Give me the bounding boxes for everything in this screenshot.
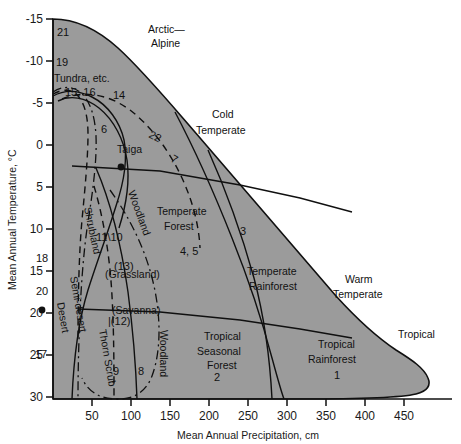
label-woodland-lower: Woodland (158, 330, 170, 377)
zone-arctic-alpine-line1: Arctic— (148, 23, 185, 35)
curve-number-6: 6 (101, 123, 107, 135)
x-tick-label: 250 (238, 409, 258, 423)
desert-point-marker (39, 307, 46, 314)
taiga-point-marker (118, 164, 125, 171)
label-tropical-seasonal-line3: Forest (207, 359, 237, 371)
y-tick-label: -5 (32, 96, 43, 110)
zone-arctic-alpine-line2: Alpine (151, 37, 180, 49)
x-tick-label: 350 (316, 409, 336, 423)
label-grassland: (Grassland) (105, 268, 160, 280)
label-tropical-rainforest-line1: Tropical (318, 338, 355, 350)
curve-number-3: 3 (240, 225, 246, 237)
curve-number-1: 1 (334, 369, 340, 381)
x-tick-label: 300 (277, 409, 297, 423)
curve-number-17: 17 (35, 348, 47, 360)
x-axis-title: Mean Annual Precipitation, cm (177, 429, 319, 441)
curve-number-19: 19 (56, 56, 68, 68)
chart-svg: -15 -10 -5 0 5 10 15 20 25 30 Mean Annua… (0, 0, 461, 444)
x-tick-label: 100 (121, 409, 141, 423)
y-tick-marks (46, 19, 53, 397)
zone-warm-temperate-line2: Temperate (333, 288, 383, 300)
y-tick-label: 5 (36, 180, 43, 194)
y-tick-label: 10 (30, 222, 44, 236)
y-tick-label: 15 (30, 264, 44, 278)
label-temperate-rainforest-line2: Rainforest (249, 280, 297, 292)
x-tick-marks (92, 399, 404, 406)
x-tick-label: 400 (355, 409, 375, 423)
curve-number-12: |(12) (108, 315, 130, 327)
label-temperate-forest-line1: Temperate (157, 205, 207, 217)
x-tick-label: 50 (85, 409, 99, 423)
y-tick-label: 0 (36, 138, 43, 152)
y-tick-label: -15 (26, 12, 44, 26)
curve-number-18: 18 (36, 252, 48, 264)
biome-chart: -15 -10 -5 0 5 10 15 20 25 30 Mean Annua… (0, 0, 461, 444)
label-temperate-forest-line2: Forest (164, 220, 194, 232)
curve-number-4-5: 4, 5 (180, 245, 198, 257)
curve-number-20: 20 (36, 285, 48, 297)
x-tick-label: 200 (199, 409, 219, 423)
zone-warm-temperate-line1: Warm (345, 273, 373, 285)
curve-number-14: 14 (113, 89, 125, 101)
curve-number-8: 8 (138, 365, 144, 377)
x-tick-label: 450 (394, 409, 414, 423)
label-savanna: (Savanna) (112, 304, 160, 316)
y-tick-label: 30 (30, 390, 44, 404)
zone-tropical: Tropical (398, 328, 435, 340)
label-tropical-rainforest-line2: Rainforest (308, 353, 356, 365)
y-axis-title: Mean Annual Temperature, °C (6, 149, 18, 290)
label-tropical-seasonal-line2: Seasonal (197, 345, 241, 357)
label-tropical-seasonal-line1: Tropical (204, 330, 241, 342)
x-tick-label: 150 (160, 409, 180, 423)
label-tundra: Tundra, etc. (54, 72, 110, 84)
zone-cold-temperate-line2: Temperate (196, 124, 246, 136)
curve-number-2: 2 (214, 371, 220, 383)
label-taiga: Taiga (117, 143, 142, 155)
y-tick-label: -10 (26, 54, 44, 68)
label-temperate-rainforest-line1: Temperate (247, 265, 297, 277)
curve-number-15-16: 15, 16 (65, 86, 96, 98)
zone-cold-temperate-line1: Cold (212, 108, 234, 120)
curve-number-21: 21 (57, 26, 69, 38)
